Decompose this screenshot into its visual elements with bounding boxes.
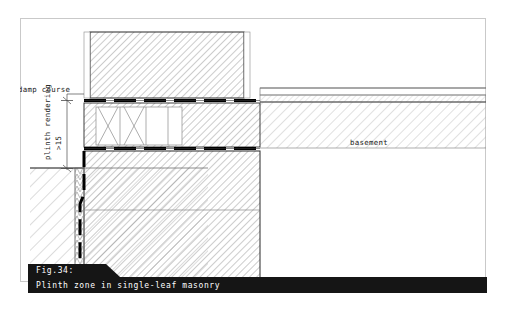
label-plinth-rendering-dimension: >15 xyxy=(54,136,63,150)
technical-drawing: damp course plinth rendering >15 basemen… xyxy=(20,18,486,282)
lower-masonry-wall xyxy=(84,151,260,282)
upper-masonry-wall xyxy=(84,32,250,98)
caption-tab-slope xyxy=(106,264,120,277)
figure-page: damp course plinth rendering >15 basemen… xyxy=(0,0,507,319)
plinth-course-ventilated-block xyxy=(84,103,260,147)
figure-title: Plinth zone in single-leaf masonry xyxy=(36,279,220,292)
figure-number: Fig.34: xyxy=(36,265,74,277)
plinth-rendering-dimension-line xyxy=(61,97,73,172)
damp-course-leader-line xyxy=(67,94,84,100)
label-plinth-rendering: plinth rendering xyxy=(43,84,52,160)
label-basement: basement xyxy=(350,138,388,147)
figure-caption: Fig.34: Plinth zone in single-leaf mason… xyxy=(28,264,487,293)
